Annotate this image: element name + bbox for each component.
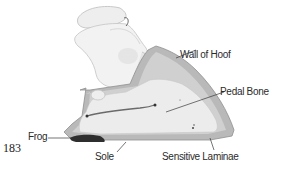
label-frog: Frog — [28, 131, 47, 142]
figure-number: 183 — [3, 141, 21, 155]
label-pedal-bone: Pedal Bone — [220, 86, 269, 97]
label-sole: Sole — [95, 151, 115, 162]
hoof-diagram: Wall of Hoof Pedal Bone Frog Sole Sensit… — [0, 0, 291, 172]
label-sensitive-laminae: Sensitive Laminae — [162, 151, 239, 162]
label-wall-of-hoof: Wall of Hoof — [180, 49, 231, 60]
hoof-wall — [64, 46, 234, 140]
